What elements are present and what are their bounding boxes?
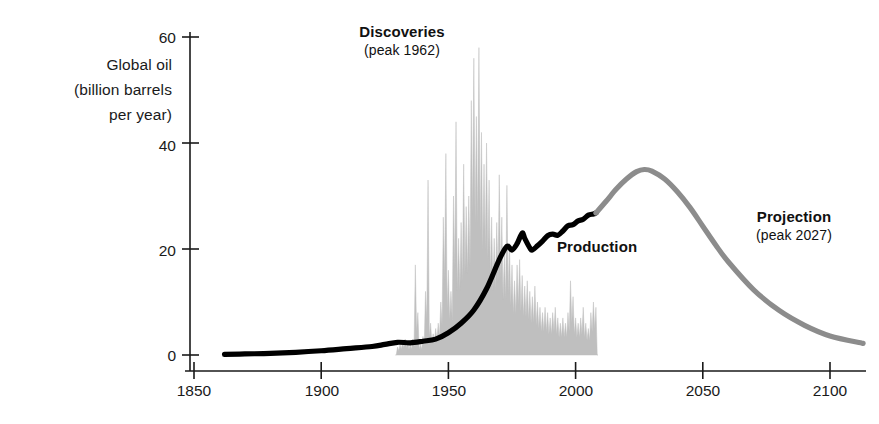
annotation-projection: Projection (peak 2027)	[733, 208, 855, 243]
x-tick-label-2100: 2100	[813, 382, 848, 399]
annotation-projection-subtitle: (peak 2027)	[733, 227, 855, 243]
projection-line-path	[596, 169, 863, 343]
x-tick-label-2000: 2000	[559, 382, 594, 399]
annotation-discoveries-title: Discoveries	[327, 23, 477, 40]
annotation-projection-title: Projection	[733, 208, 855, 225]
y-tick-label-20: 20	[159, 242, 177, 259]
projection-line	[596, 169, 863, 343]
annotation-production: Production	[557, 238, 637, 255]
y-tick-label-40: 40	[159, 137, 177, 154]
oil-discoveries-production-chart: Global oil (billion barrels per year) 60…	[0, 0, 879, 424]
x-tick-label-1950: 1950	[432, 382, 467, 399]
x-tick-label-1900: 1900	[305, 382, 340, 399]
x-tick-label-2050: 2050	[686, 382, 721, 399]
discoveries-area-path	[396, 48, 598, 355]
y-tick-label-0: 0	[167, 347, 176, 364]
annotation-production-title: Production	[557, 238, 637, 255]
x-tick-label-1850: 1850	[177, 382, 212, 399]
annotation-discoveries: Discoveries (peak 1962)	[327, 23, 477, 58]
annotation-discoveries-subtitle: (peak 1962)	[327, 42, 477, 58]
discoveries-area	[396, 48, 598, 355]
y-tick-label-60: 60	[159, 29, 177, 46]
